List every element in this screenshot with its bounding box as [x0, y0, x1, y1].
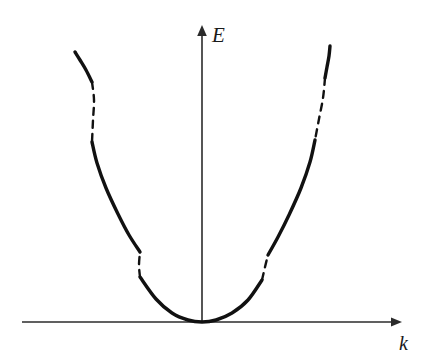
wavevector-axis-label: k [399, 332, 409, 354]
gap-2-left-dashed [92, 82, 94, 142]
band-structure-svg: E k [0, 0, 425, 363]
band-3-left-solid [75, 52, 92, 82]
gap-1-right-dashed [262, 255, 268, 280]
gap-1-left-dashed [139, 252, 140, 277]
axes-group [22, 25, 402, 327]
wavevector-axis-arrowhead [391, 317, 402, 326]
band-2-right-solid [268, 140, 315, 255]
band-1-solid [140, 277, 262, 322]
band-2-left-solid [92, 142, 140, 252]
gap-2-right-dashed [315, 78, 325, 140]
energy-axis-arrowhead [197, 25, 207, 36]
band-3-right-solid [325, 46, 330, 78]
band-structure-figure: E k [0, 0, 425, 363]
energy-axis-label: E [211, 23, 225, 47]
